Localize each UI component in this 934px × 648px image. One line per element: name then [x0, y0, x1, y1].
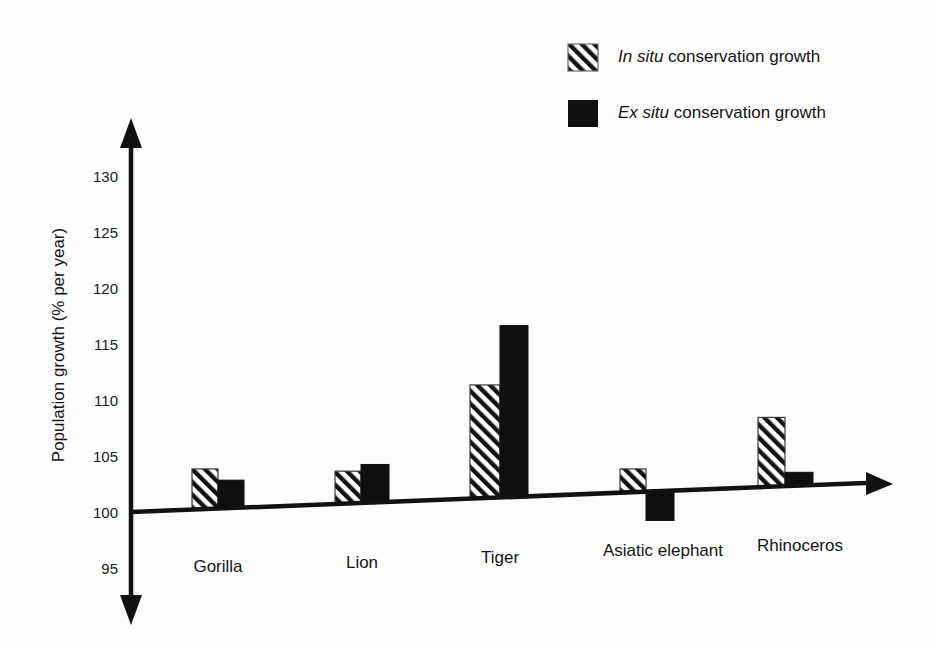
chart-page: 95100105110115120125130 GorillaLionTiger… — [0, 0, 934, 648]
category-label: Gorilla — [193, 557, 243, 576]
legend-label-rest: conservation growth — [663, 47, 820, 66]
bar-group — [470, 326, 528, 498]
y-tick-label: 125 — [93, 224, 118, 241]
hatched-swatch — [568, 44, 598, 71]
y-tick-label: 110 — [94, 392, 118, 409]
bar-ex-situ — [361, 464, 389, 502]
chart-legend: In situ conservation growthEx situ conse… — [568, 44, 826, 127]
bar-group — [620, 469, 674, 521]
y-tick-label: 105 — [93, 448, 118, 465]
bar-in-situ — [192, 469, 218, 509]
category-labels: GorillaLionTigerAsiatic elephantRhinocer… — [193, 536, 843, 576]
bar-in-situ — [470, 385, 500, 498]
y-tick-label: 95 — [101, 560, 118, 577]
legend-label-italic: Ex situ — [618, 103, 670, 122]
category-label: Lion — [346, 553, 378, 572]
bar-in-situ — [620, 469, 646, 492]
bar-ex-situ — [500, 326, 528, 497]
y-tick-label: 120 — [93, 280, 118, 297]
category-label: Asiatic elephant — [603, 541, 723, 560]
legend-label: Ex situ conservation growth — [618, 103, 826, 122]
bar-group — [335, 464, 389, 503]
category-label: Rhinoceros — [757, 536, 843, 555]
bar-in-situ — [758, 417, 785, 486]
legend-label-rest: conservation growth — [669, 103, 826, 122]
bar-group — [758, 417, 813, 486]
bar-in-situ — [335, 471, 361, 503]
bar-ex-situ — [218, 480, 244, 508]
y-tick-label: 115 — [94, 336, 118, 353]
bars-layer — [192, 326, 813, 521]
y-axis — [120, 118, 142, 625]
bar-ex-situ — [646, 491, 674, 520]
solid-swatch — [568, 100, 598, 127]
plot-area: 95100105110115120125130 GorillaLionTiger… — [93, 118, 893, 625]
legend-label: In situ conservation growth — [618, 47, 820, 66]
y-axis-arrow-down — [120, 595, 142, 625]
category-label: Tiger — [481, 548, 519, 567]
y-axis-arrow-up — [120, 118, 142, 148]
legend-label-italic: In situ — [618, 47, 664, 66]
y-axis-title-text: Population growth (% per year) — [49, 228, 68, 462]
y-axis-title: Population growth (% per year) — [49, 228, 68, 462]
y-tick-label: 100 — [93, 504, 118, 521]
bar-chart: 95100105110115120125130 GorillaLionTiger… — [0, 0, 934, 648]
y-tick-label: 130 — [93, 168, 118, 185]
bar-group — [192, 469, 244, 509]
y-tick-labels: 95100105110115120125130 — [93, 168, 118, 577]
